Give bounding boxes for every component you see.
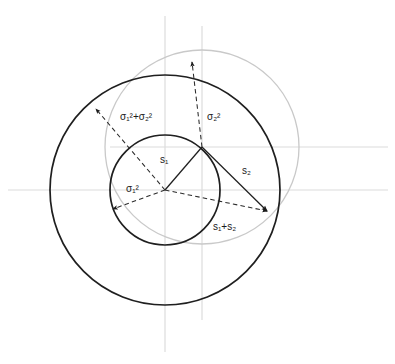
arrow-s1-plus-s2 (165, 190, 267, 211)
label-sigma2-squared: σ₂² (207, 112, 220, 122)
diagram-canvas: σ₁²+σ₂² σ₂² σ₁² s₁ s₂ s₁+s₂ (0, 0, 395, 364)
label-s1-plus-s2: s₁+s₂ (213, 222, 236, 232)
axis-group (8, 16, 388, 352)
arrow-sigma2-sq (192, 62, 202, 147)
label-sigma-sum-squared: σ₁²+σ₂² (120, 112, 152, 122)
vector-variance-diagram (0, 0, 395, 364)
vector-s1 (165, 147, 202, 190)
label-sigma1-squared: σ₁² (126, 184, 139, 194)
label-s2: s₂ (242, 166, 251, 176)
label-s1: s₁ (160, 155, 168, 165)
vector-s2 (202, 147, 267, 211)
solid-vector-group (165, 147, 267, 211)
